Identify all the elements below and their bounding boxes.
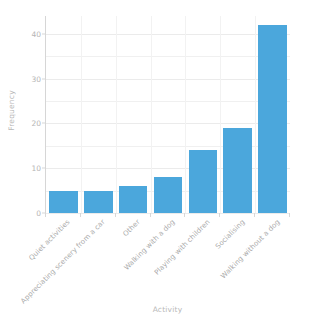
bar: [154, 177, 183, 213]
plot-area: [45, 16, 290, 214]
bar: [84, 191, 113, 213]
gridline-horizontal: [46, 146, 290, 147]
gridline-vertical: [220, 16, 221, 213]
x-axis-tick-mark: [45, 213, 46, 217]
y-axis-tick-labels: 010203040: [22, 0, 45, 220]
bar: [258, 25, 287, 213]
gridline-horizontal: [46, 168, 290, 169]
bar: [49, 191, 78, 213]
bar: [189, 150, 218, 213]
x-axis-tick-mark: [184, 213, 185, 217]
bar-chart-figure: Frequency 010203040 Quiet activitiesAppr…: [0, 0, 313, 334]
gridline-horizontal: [46, 34, 290, 35]
x-axis-tick-mark: [115, 213, 116, 217]
y-axis-tick-label: 0: [36, 209, 41, 218]
x-axis-tick-mark: [80, 213, 81, 217]
gridline-vertical: [185, 16, 186, 213]
y-axis-tick-label: 40: [31, 29, 41, 38]
x-axis-title: Activity: [45, 305, 290, 314]
x-axis-tick-mark: [254, 213, 255, 217]
y-axis-tick-label: 20: [31, 119, 41, 128]
y-axis-title: Frequency: [0, 0, 22, 220]
y-axis-tick-label: 10: [31, 164, 41, 173]
gridline-horizontal: [46, 101, 290, 102]
x-axis-tick-mark: [150, 213, 151, 217]
gridline-horizontal: [46, 123, 290, 124]
x-axis-tick-mark: [219, 213, 220, 217]
x-axis-category-labels: Quiet activitiesAppreciating scenery fro…: [45, 218, 290, 298]
y-axis-tick-label: 30: [31, 74, 41, 83]
gridline-vertical: [255, 16, 256, 213]
x-axis-category-label: Other: [122, 218, 142, 238]
y-axis-title-text: Frequency: [7, 90, 16, 131]
gridline-vertical: [81, 16, 82, 213]
bar: [119, 186, 148, 213]
x-axis-category-label: Socialising: [214, 218, 247, 251]
x-axis-category-label: Walking without a dog: [219, 218, 281, 280]
x-axis-tick-mark: [289, 213, 290, 217]
bar: [223, 128, 252, 213]
gridline-horizontal: [46, 56, 290, 57]
gridline-vertical: [151, 16, 152, 213]
gridline-horizontal: [46, 79, 290, 80]
gridline-vertical: [116, 16, 117, 213]
